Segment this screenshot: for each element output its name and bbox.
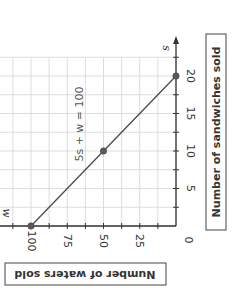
data-point xyxy=(173,73,179,79)
origin-label: 0 xyxy=(182,237,195,244)
axes xyxy=(0,36,179,226)
s-tick-label: 5 xyxy=(184,185,197,192)
tick-labels: 51015202550751000 xyxy=(25,69,197,252)
x-axis-variable: s xyxy=(160,45,173,51)
s-tick-label: 15 xyxy=(184,107,197,121)
data-point xyxy=(28,223,34,229)
ticks xyxy=(13,57,179,229)
w-tick-label: 25 xyxy=(133,234,146,248)
w-tick-label: 100 xyxy=(25,231,38,252)
chart-canvas: 51015202550751000 s w 5s + w = 100 Numbe… xyxy=(0,0,239,288)
s-tick-label: 10 xyxy=(184,144,197,158)
s-tick-label: 20 xyxy=(184,69,197,83)
s-axis-arrow-icon xyxy=(173,36,179,44)
y-axis-title: Number of waters sold xyxy=(14,268,155,281)
grid xyxy=(0,57,176,226)
w-tick-label: 50 xyxy=(97,234,110,248)
x-axis-title: Number of sandwiches sold xyxy=(210,47,223,218)
data-point xyxy=(100,148,106,154)
y-axis-variable: w xyxy=(0,208,13,218)
equation-label: 5s + w = 100 xyxy=(73,86,86,161)
w-tick-label: 75 xyxy=(61,234,74,248)
